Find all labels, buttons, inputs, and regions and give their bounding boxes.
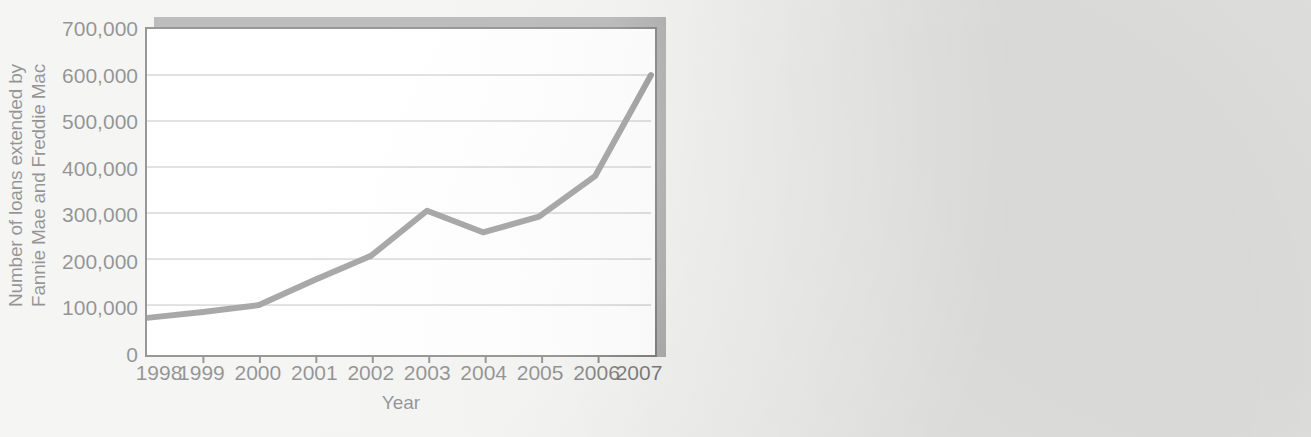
loans-series-line <box>147 75 651 318</box>
loans-x-tick-2000: 2000 <box>235 362 282 383</box>
loans-y-tick-100000: 100,000 <box>28 297 138 318</box>
loans-y-tick-labels: 0100,000200,000300,000400,000500,000600,… <box>28 0 138 357</box>
figure-pair: Number of loans extended by Fannie Mae a… <box>0 0 1311 437</box>
loans-y-tick-300000: 300,000 <box>28 204 138 225</box>
loans-y-tick-600000: 600,000 <box>28 65 138 86</box>
loans-x-axis-title: Year <box>145 392 657 414</box>
loans-y-tick-500000: 500,000 <box>28 111 138 132</box>
loans-y-tick-700000: 700,000 <box>28 18 138 39</box>
loans-y-tick-0: 0 <box>28 344 138 365</box>
chart-percent-low-downpayment: Percent Fannie Mae and Freddie Mac loans… <box>672 0 1311 437</box>
loans-x-tick-1998: 1998 <box>136 362 183 383</box>
loans-x-tick-2004: 2004 <box>460 362 507 383</box>
loans-y-tick-400000: 400,000 <box>28 158 138 179</box>
loans-x-tick-2006: 2006 <box>573 362 620 383</box>
loans-x-tick-2003: 2003 <box>404 362 451 383</box>
loans-x-tick-2002: 2002 <box>347 362 394 383</box>
chart-loans-extended: Number of loans extended by Fannie Mae a… <box>0 0 672 437</box>
loans-x-tick-2007: 2007 <box>616 362 663 383</box>
loans-x-tick-labels: 1998199920002001200220032004200520062007 <box>145 362 657 388</box>
loans-plot-canvas <box>147 29 655 355</box>
loans-x-tick-1999: 1999 <box>178 362 225 383</box>
loans-x-tick-2001: 2001 <box>291 362 338 383</box>
loans-plot-area <box>145 27 657 357</box>
loans-y-tick-200000: 200,000 <box>28 251 138 272</box>
loans-x-tick-2005: 2005 <box>517 362 564 383</box>
